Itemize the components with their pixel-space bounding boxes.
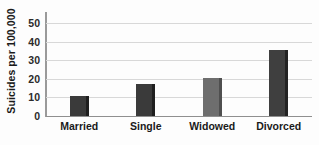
bar-single <box>136 84 155 116</box>
bar-divorced <box>269 50 288 116</box>
x-tick-label-divorced: Divorced <box>256 120 301 132</box>
gridline-50 <box>46 23 312 24</box>
x-tick-label-widowed: Widowed <box>189 120 235 132</box>
bar-body <box>203 78 219 116</box>
y-tick-label-20: 20 <box>28 73 40 85</box>
y-tick-label-50: 50 <box>28 17 40 29</box>
x-tick-label-married: Married <box>60 120 98 132</box>
bar-body <box>269 50 285 116</box>
gridline-40 <box>46 42 312 43</box>
bar-widowed <box>203 78 222 116</box>
x-tick-label-single: Single <box>130 120 162 132</box>
bar-body <box>136 84 152 116</box>
bar-edge <box>219 78 222 116</box>
bar-body <box>70 96 86 116</box>
y-tick-label-40: 40 <box>28 36 40 48</box>
y-axis-tick-labels: 01020304050 <box>22 14 42 116</box>
x-axis-tick-labels: MarriedSingleWidowedDivorced <box>46 120 312 140</box>
bar-chart: Suicides per 100,000 01020304050 Married… <box>0 0 319 145</box>
gridline-0 <box>46 116 312 117</box>
y-axis-title-label: Suicides per 100,000 <box>5 8 17 113</box>
bar-edge <box>86 96 89 116</box>
bar-edge <box>152 84 155 116</box>
bar-married <box>70 96 89 116</box>
y-tick-label-30: 30 <box>28 54 40 66</box>
y-axis-title: Suicides per 100,000 <box>0 0 22 122</box>
plot-area <box>46 14 312 116</box>
bar-edge <box>285 50 288 116</box>
y-tick-label-10: 10 <box>28 91 40 103</box>
y-tick-label-0: 0 <box>34 110 40 122</box>
